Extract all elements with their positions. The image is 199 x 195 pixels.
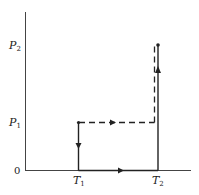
end-point bbox=[156, 43, 160, 47]
pt-diagram: 0 P2 P1 T1 T2 bbox=[0, 0, 199, 195]
y-label-p1: P1 bbox=[8, 116, 21, 130]
x-label-t2: T2 bbox=[152, 174, 164, 188]
origin-label: 0 bbox=[14, 165, 20, 176]
arrow-right-dashed-icon bbox=[110, 120, 116, 126]
arrow-up-icon bbox=[155, 66, 161, 73]
start-point bbox=[77, 121, 80, 124]
dashed-path bbox=[79, 45, 155, 123]
x-label-t1: T1 bbox=[73, 174, 85, 188]
solid-path bbox=[79, 45, 159, 171]
arrow-right-icon bbox=[118, 168, 124, 174]
arrow-down-icon bbox=[76, 143, 82, 149]
y-label-p2: P2 bbox=[8, 39, 21, 53]
